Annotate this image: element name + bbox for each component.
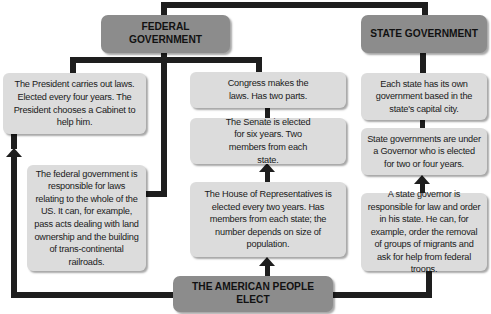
arrow-up-icon xyxy=(6,148,22,157)
arrow-up-icon xyxy=(259,257,275,266)
president-box: The President carries out laws. Elected … xyxy=(3,73,146,134)
federal-responsibility-box: The federal government is responsible fo… xyxy=(27,165,146,271)
connector-people-to-state xyxy=(333,292,432,298)
connector-president-stem xyxy=(11,133,17,149)
federal-government-node: FEDERAL GOVERNMENT xyxy=(101,15,230,53)
congress-box: Congress makes the laws. Has two parts. xyxy=(190,72,346,108)
connector-top-right-vertical xyxy=(422,2,428,16)
state-government-node: STATE GOVERNMENT xyxy=(361,15,487,53)
connector-left-vertical xyxy=(11,155,17,298)
connector-state-down xyxy=(420,50,426,74)
governor-responsibility-box: A state governor is responsible for law … xyxy=(361,193,487,271)
connector-federal-trunk xyxy=(161,57,167,197)
connector-to-congress xyxy=(256,57,262,73)
governor-box: State governments are under a Governor w… xyxy=(361,128,487,175)
connector-top-horizontal xyxy=(161,2,428,8)
house-box: The House of Representatives is elected … xyxy=(190,182,346,257)
senate-box: The Senate is elected for six years. Two… xyxy=(190,118,346,164)
connector-people-to-left xyxy=(11,292,175,298)
each-state-box: Each state has its own government based … xyxy=(361,73,487,120)
american-people-elect-node: THE AMERICAN PEOPLE ELECT xyxy=(173,276,333,312)
connector-to-federal-responsibility xyxy=(146,191,167,197)
arrow-up-icon xyxy=(414,175,430,184)
connector-to-president xyxy=(70,57,76,74)
